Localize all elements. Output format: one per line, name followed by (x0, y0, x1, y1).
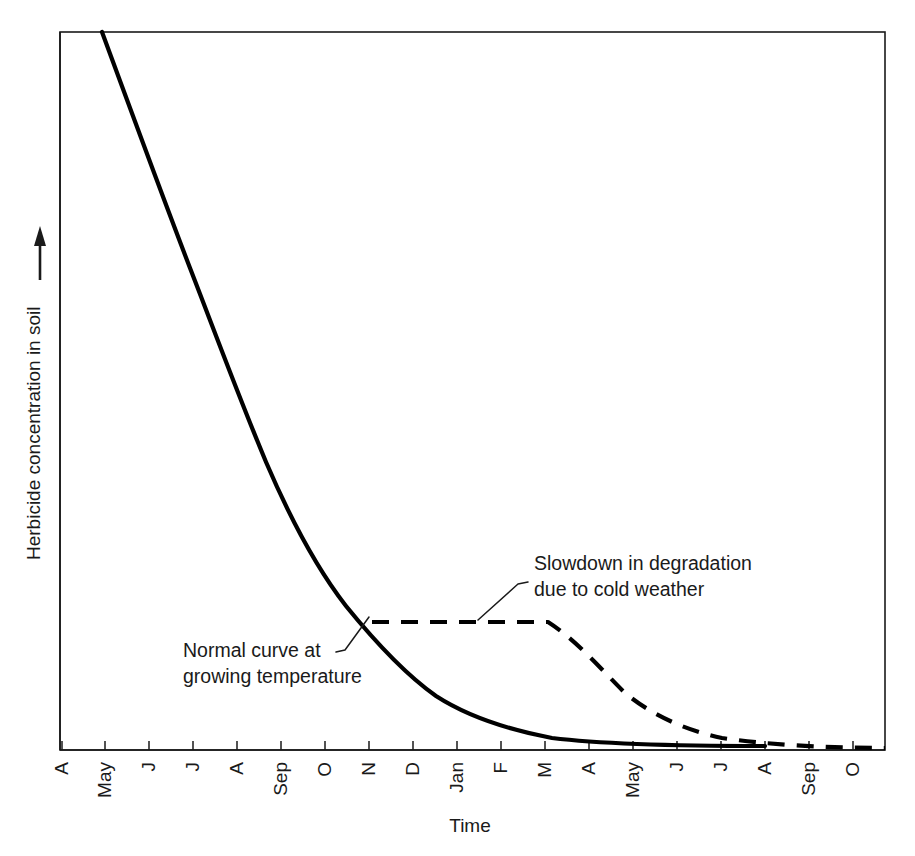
x-tick-label: A (226, 762, 247, 775)
x-tick-label: A (51, 762, 72, 775)
x-tick-label: F (490, 762, 511, 774)
x-axis-tick-labels: A May J J A Sep O N D Jan F M A May J J … (51, 762, 863, 798)
x-tick-label: J (182, 762, 203, 772)
x-tick-label: Sep (270, 762, 291, 796)
x-tick-label: J (710, 762, 731, 772)
annotation-normal-curve-line1: Normal curve at (183, 639, 321, 661)
x-tick-label: O (314, 762, 335, 777)
x-tick-label: A (578, 762, 599, 775)
x-tick-label: D (402, 762, 423, 776)
series-cold-slowdown (372, 622, 885, 748)
y-axis-title: Herbicide concentration in soil (23, 307, 44, 560)
x-tick-label: May (94, 762, 115, 798)
x-tick-label: J (138, 762, 159, 772)
x-tick-label: O (842, 762, 863, 777)
y-axis-arrow-icon (34, 226, 46, 280)
annotation-normal-curve: Normal curve at growing temperature (183, 617, 369, 687)
annotation-normal-curve-line2: growing temperature (183, 665, 362, 687)
annotation-slowdown-line2: due to cold weather (534, 578, 705, 600)
x-tick-label: N (358, 762, 379, 776)
x-tick-label: M (534, 762, 555, 778)
x-tick-label: Jan (446, 762, 467, 793)
x-tick-label: J (666, 762, 687, 772)
x-tick-label: A (754, 762, 775, 775)
annotation-slowdown: Slowdown in degradation due to cold weat… (478, 552, 752, 620)
herbicide-degradation-figure: A May J J A Sep O N D Jan F M A May J J … (0, 0, 915, 856)
x-tick-label: Sep (798, 762, 819, 796)
x-tick-label: May (622, 762, 643, 798)
annotation-slowdown-line1: Slowdown in degradation (534, 552, 752, 574)
x-axis-title: Time (449, 815, 491, 836)
chart-canvas: A May J J A Sep O N D Jan F M A May J J … (0, 0, 915, 856)
